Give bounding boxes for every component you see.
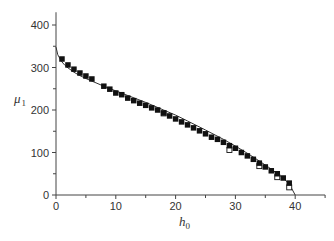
filled-square-marker [167, 113, 173, 119]
filled-square-marker [161, 110, 167, 116]
x-tick-label: 20 [169, 200, 181, 212]
filled-square-marker [77, 70, 83, 76]
filled-square-marker [125, 95, 131, 101]
filled-square-marker [191, 125, 197, 131]
filled-square-marker [233, 146, 239, 152]
filled-square-marker [286, 180, 292, 186]
plot-area [56, 47, 295, 195]
x-axis-label: h0 [179, 214, 191, 231]
x-tick-label: 10 [110, 200, 122, 212]
filled-square-marker [263, 164, 269, 170]
filled-square-marker [251, 157, 257, 163]
x-tick-label: 30 [229, 200, 241, 212]
filled-square-marker [215, 137, 221, 143]
y-tick-label: 200 [31, 104, 49, 116]
filled-square-marker [269, 168, 275, 174]
filled-square-marker [149, 105, 155, 111]
chart: 0102030400100200300400 μ1 h0 [0, 0, 334, 241]
filled-square-marker [209, 134, 215, 140]
filled-square-marker [155, 107, 161, 113]
filled-square-marker [227, 143, 233, 149]
filled-square-marker [203, 131, 209, 137]
y-tick-label: 400 [31, 19, 49, 31]
filled-square-marker [245, 153, 251, 159]
filled-square-marker [131, 98, 137, 104]
y-tick-label: 0 [43, 189, 49, 201]
y-axis-label: μ1 [13, 91, 26, 108]
filled-square-marker [59, 56, 64, 62]
filled-square-marker [143, 103, 149, 109]
filled-square-marker [107, 86, 113, 92]
tick-marks [52, 25, 325, 199]
filled-square-marker [113, 90, 119, 96]
filled-square-marker [221, 140, 227, 146]
filled-square-marker [71, 66, 77, 72]
filled-square-marker [197, 128, 203, 134]
y-tick-label: 100 [31, 147, 49, 159]
filled-square-marker [83, 73, 89, 79]
filled-square-marker [173, 116, 179, 122]
filled-square-marker [179, 119, 185, 125]
filled-square-marker [119, 92, 125, 98]
filled-square-marker [275, 171, 281, 177]
filled-square-marker [257, 160, 263, 166]
filled-square-marker [280, 175, 286, 181]
x-tick-label: 40 [289, 200, 301, 212]
filled-square-marker [101, 83, 107, 89]
axes [56, 12, 325, 195]
filled-square-marker [185, 122, 191, 128]
y-tick-label: 300 [31, 62, 49, 74]
filled-square-marker [137, 100, 143, 106]
filled-square-marker [239, 150, 245, 156]
filled-square-marker [89, 76, 95, 82]
x-tick-label: 0 [53, 200, 59, 212]
filled-square-marker [65, 62, 71, 67]
